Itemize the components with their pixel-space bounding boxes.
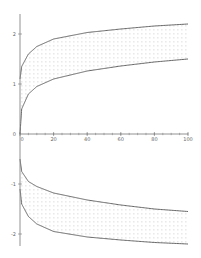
x-tick-label: 60 bbox=[118, 136, 124, 142]
chart: 0204060801000 21-1-2 bbox=[0, 0, 201, 258]
x-tick-label: 80 bbox=[151, 136, 157, 142]
y-tick-label: -2 bbox=[11, 231, 16, 237]
origin-label: 0 bbox=[13, 131, 16, 137]
x-tick-label: 20 bbox=[50, 136, 56, 142]
dotted-region-1 bbox=[20, 24, 188, 134]
x-tick-label: 100 bbox=[183, 136, 193, 142]
y-axis: 21-1-2 bbox=[11, 14, 22, 246]
y-tick-label: 2 bbox=[13, 31, 16, 37]
y-tick-label: 1 bbox=[13, 81, 16, 87]
x-tick-label: 0 bbox=[20, 136, 23, 142]
y-tick-label: -1 bbox=[11, 181, 16, 187]
dotted-region-2 bbox=[20, 159, 188, 244]
x-axis: 0204060801000 bbox=[13, 131, 193, 142]
x-tick-label: 40 bbox=[84, 136, 90, 142]
